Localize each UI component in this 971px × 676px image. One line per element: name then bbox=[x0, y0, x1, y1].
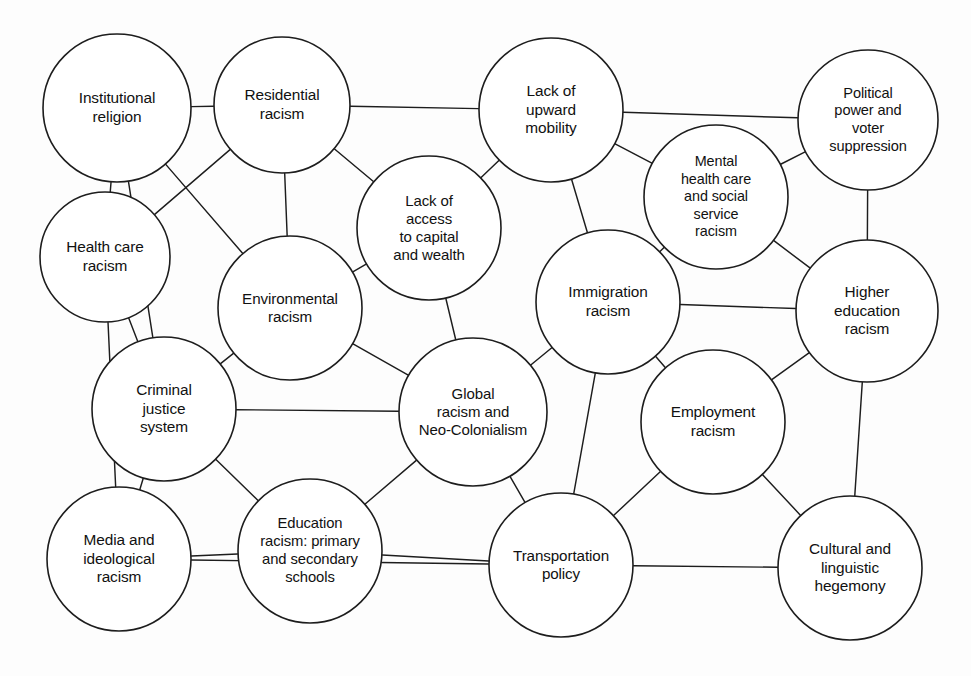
edge-criminal-justice-system--education-racism-primary-and-secondary-schools bbox=[216, 460, 258, 501]
edge-immigration-racism--global-racism-and-neo-colonialism bbox=[531, 348, 552, 365]
edge-institutional-religion--health-care-racism bbox=[110, 182, 111, 191]
node-media-and-ideological-racism[interactable] bbox=[47, 487, 191, 631]
edge-immigration-racism--employment-racism bbox=[656, 357, 666, 368]
edge-lack-of-access-to-capital-and-wealth--environmental-racism bbox=[353, 264, 366, 272]
edge-residential-racism--lack-of-access-to-capital-and-wealth bbox=[335, 149, 374, 182]
node-lack-of-upward-mobility[interactable] bbox=[479, 38, 623, 182]
edge-employment-racism--cultural-and-linguistic-hegemony bbox=[763, 475, 801, 515]
node-political-power-and-voter-suppression[interactable] bbox=[798, 50, 938, 190]
node-residential-racism[interactable] bbox=[214, 37, 350, 173]
edge-global-racism-and-neo-colonialism--education-racism-primary-and-secondary-schools bbox=[365, 460, 416, 504]
node-employment-racism[interactable] bbox=[641, 350, 785, 494]
node-mental-health-care-and-social-service-racism[interactable] bbox=[644, 125, 788, 269]
node-criminal-justice-system[interactable] bbox=[92, 337, 236, 481]
edge-institutional-religion--environmental-racism bbox=[166, 164, 243, 253]
edge-education-racism-primary-and-secondary-schools--transportation-policy bbox=[382, 555, 488, 561]
edge-transportation-policy--cultural-and-linguistic-hegemony bbox=[634, 566, 778, 568]
node-cultural-and-linguistic-hegemony[interactable] bbox=[778, 496, 922, 640]
edge-global-racism-and-neo-colonialism--transportation-policy bbox=[510, 477, 525, 503]
edge-criminal-justice-system--global-racism-and-neo-colonialism bbox=[237, 410, 399, 412]
edge-lack-of-upward-mobility--lack-of-access-to-capital-and-wealth bbox=[481, 160, 499, 177]
node-lack-of-access-to-capital-and-wealth[interactable] bbox=[357, 156, 501, 300]
node-transportation-policy[interactable] bbox=[489, 493, 633, 637]
node-immigration-racism[interactable] bbox=[536, 230, 680, 374]
edge-political-power-and-voter-suppression--mental-health-care-and-social-service-racism bbox=[781, 152, 805, 164]
node-health-care-racism[interactable] bbox=[40, 192, 170, 322]
edge-residential-racism--lack-of-upward-mobility bbox=[350, 106, 478, 108]
edge-immigration-racism--higher-education-racism bbox=[680, 305, 795, 309]
edge-criminal-justice-system--media-and-ideological-racism bbox=[140, 478, 143, 489]
systemic-racism-diagram: Institutional religionResidential racism… bbox=[0, 0, 971, 676]
node-institutional-religion[interactable] bbox=[43, 34, 191, 182]
edge-higher-education-racism--cultural-and-linguistic-hegemony bbox=[855, 382, 862, 495]
nodes-layer bbox=[40, 34, 938, 640]
edge-mental-health-care-and-social-service-racism--higher-education-racism bbox=[774, 241, 810, 268]
edge-lack-of-upward-mobility--political-power-and-voter-suppression bbox=[623, 112, 797, 117]
node-education-racism-primary-and-secondary-schools[interactable] bbox=[238, 479, 382, 623]
edge-environmental-racism--criminal-justice-system bbox=[221, 353, 234, 363]
edge-employment-racism--transportation-policy bbox=[614, 472, 660, 516]
node-global-racism-and-neo-colonialism[interactable] bbox=[399, 338, 547, 486]
edge-lack-of-upward-mobility--immigration-racism bbox=[572, 180, 588, 233]
edge-lack-of-upward-mobility--mental-health-care-and-social-service-racism bbox=[615, 144, 652, 163]
network-graph-canvas bbox=[0, 0, 971, 676]
edge-environmental-racism--global-racism-and-neo-colonialism bbox=[353, 344, 408, 375]
edge-lack-of-access-to-capital-and-wealth--global-racism-and-neo-colonialism bbox=[446, 299, 456, 340]
edge-residential-racism--environmental-racism bbox=[285, 173, 287, 235]
edge-media-and-ideological-racism--education-racism-primary-and-secondary-schools bbox=[191, 554, 237, 556]
edge-higher-education-racism--employment-racism bbox=[772, 353, 809, 380]
node-environmental-racism[interactable] bbox=[218, 236, 362, 380]
edge-mental-health-care-and-social-service-racism--immigration-racism bbox=[660, 248, 664, 252]
edge-health-care-racism--criminal-justice-system bbox=[129, 318, 138, 341]
node-higher-education-racism[interactable] bbox=[796, 240, 938, 382]
edge-immigration-racism--transportation-policy bbox=[574, 373, 596, 493]
